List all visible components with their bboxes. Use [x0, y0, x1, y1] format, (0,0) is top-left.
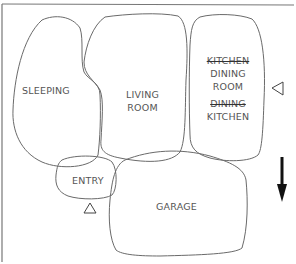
struck-kitchen-label: KITCHEN: [202, 54, 254, 67]
garage-label: GARAGE: [156, 200, 197, 213]
bubble-diagram-canvas: [0, 0, 296, 264]
kitchen-label: KITCHEN: [202, 110, 254, 123]
living-label-line1: LIVING: [126, 88, 159, 101]
kitchen-dining-labels: KITCHEN DINING ROOM DINING KITCHEN: [202, 54, 254, 123]
frame-top-border: [2, 4, 294, 5]
north-arrow-head-icon: [277, 184, 287, 202]
room-label: ROOM: [202, 80, 254, 93]
kitchen-triangle-icon: [272, 82, 283, 95]
entry-label: ENTRY: [72, 174, 104, 187]
sleeping-label: SLEEPING: [22, 84, 70, 97]
dining-label: DINING: [202, 67, 254, 80]
struck-dining-label: DINING: [202, 97, 254, 110]
living-room-label: LIVING ROOM: [126, 88, 159, 114]
living-label-line2: ROOM: [126, 101, 159, 114]
entry-triangle-icon: [84, 203, 96, 213]
